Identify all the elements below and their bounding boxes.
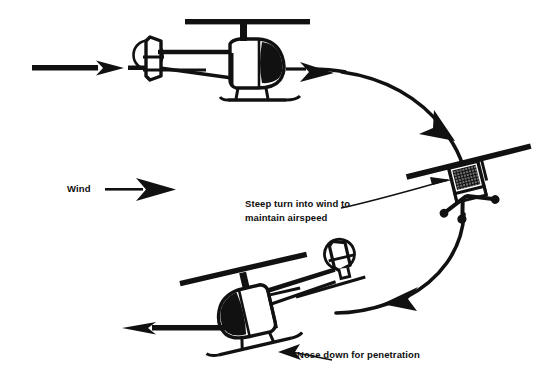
nose-down-label: Nose down for penetration: [297, 349, 420, 360]
diagram-artwork: [0, 0, 550, 392]
helicopter-maneuver-diagram: Wind Steep turn into wind to maintain ai…: [0, 0, 550, 392]
wind-label: Wind: [67, 183, 91, 194]
steep-turn-label-line2: maintain airspeed: [245, 212, 327, 223]
steep-turn-label-line1: Steep turn into wind to: [245, 198, 350, 209]
